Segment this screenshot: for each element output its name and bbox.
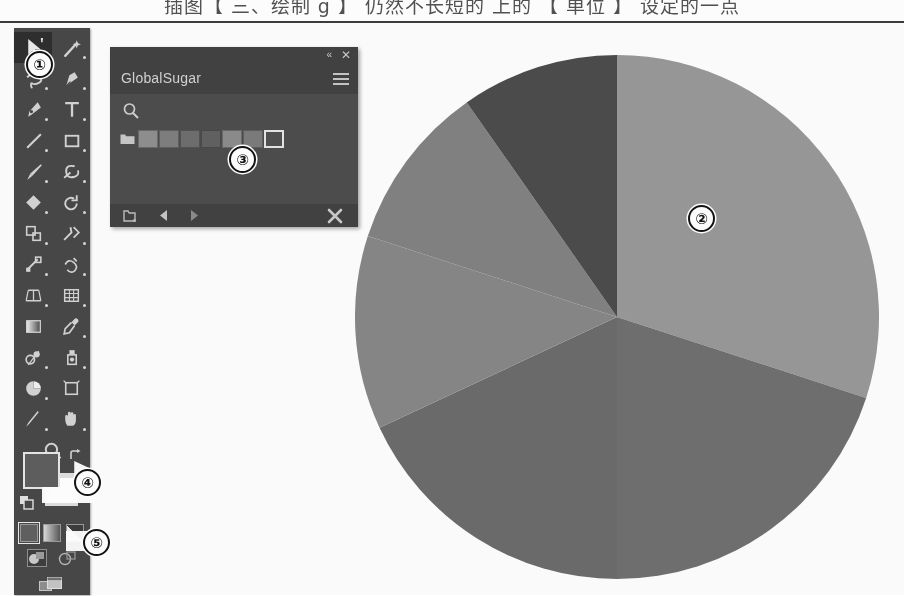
tool-flyout-indicator	[83, 335, 86, 338]
draw-normal-icon[interactable]	[27, 549, 47, 567]
gradient-tool[interactable]	[14, 311, 52, 342]
tool-flyout-indicator	[45, 211, 48, 214]
tools-panel[interactable]	[14, 28, 90, 595]
swatches-panel[interactable]: « ✕ GlobalSugar	[110, 47, 358, 227]
tool-flyout-indicator	[83, 428, 86, 431]
mesh-tool[interactable]	[52, 280, 90, 311]
type-tool[interactable]	[52, 94, 90, 125]
shaper-loop-icon	[61, 161, 82, 182]
scale-tool[interactable]	[14, 218, 52, 249]
tool-row	[14, 187, 90, 218]
swatch-row[interactable]	[120, 130, 285, 148]
triangle-left-icon[interactable]	[156, 208, 172, 223]
swatch-3[interactable]	[180, 130, 200, 148]
tool-flyout-indicator	[45, 149, 48, 152]
type-T-icon	[61, 99, 82, 120]
screen-mode-button[interactable]	[14, 572, 90, 596]
swatch-folder-icon[interactable]	[120, 133, 135, 145]
artboard-tool[interactable]	[52, 373, 90, 404]
tool-row	[14, 373, 90, 404]
tool-flyout-indicator	[83, 149, 86, 152]
tool-flyout-indicator	[83, 242, 86, 245]
column-graph-tool[interactable]	[14, 373, 52, 404]
swatch-1[interactable]	[138, 130, 158, 148]
screen-mode-icon[interactable]	[39, 575, 65, 593]
width-tool[interactable]	[52, 218, 90, 249]
eraser-tool[interactable]	[14, 187, 52, 218]
eyedropper-tool[interactable]	[52, 311, 90, 342]
artboard-icon	[61, 378, 82, 399]
tool-flyout-indicator	[83, 366, 86, 369]
tool-flyout-indicator	[45, 428, 48, 431]
rectangle-icon	[61, 130, 82, 151]
rotate-tool[interactable]	[52, 187, 90, 218]
search-magnifier-icon[interactable]	[122, 102, 140, 120]
callout-4: ④	[74, 469, 101, 496]
magic-wand-icon	[61, 37, 82, 58]
default-fill-stroke-icon[interactable]	[19, 495, 34, 510]
symbol-sprayer-tool[interactable]	[52, 342, 90, 373]
shaper-tool[interactable]	[52, 156, 90, 187]
swap-fill-stroke-icon[interactable]	[68, 448, 84, 464]
swatch-7[interactable]	[264, 130, 284, 148]
paintbrush-tool[interactable]	[14, 156, 52, 187]
swatch-2[interactable]	[159, 130, 179, 148]
callout-2: ②	[688, 205, 715, 232]
fill-swatch[interactable]	[23, 452, 60, 489]
tool-grid[interactable]	[14, 32, 90, 466]
tool-row	[14, 280, 90, 311]
curvature-tool[interactable]	[14, 94, 52, 125]
triangle-right-icon[interactable]	[186, 208, 202, 223]
callout-1: ①	[26, 51, 53, 78]
pen-tool[interactable]	[52, 63, 90, 94]
hand-tool[interactable]	[52, 404, 90, 435]
illustrator-canvas[interactable]: « ✕ GlobalSugar	[0, 23, 904, 595]
pie-chart-svg[interactable]	[355, 23, 895, 595]
callout-5: ⑤	[83, 529, 110, 556]
slice-tool[interactable]	[14, 404, 52, 435]
panel-menu-hamburger-icon[interactable]	[333, 73, 349, 85]
close-x-icon[interactable]: ✕	[341, 48, 351, 62]
free-transform-tool[interactable]	[14, 249, 52, 280]
pie-chart[interactable]	[355, 23, 895, 595]
tool-row	[14, 218, 90, 249]
hand-icon	[61, 409, 82, 430]
tool-row	[14, 342, 90, 373]
diagonal-line-icon	[23, 130, 44, 151]
pie-slice-group[interactable]	[355, 55, 879, 579]
perspective-grid-tool[interactable]	[14, 280, 52, 311]
swatch-4[interactable]	[201, 130, 221, 148]
delete-x-icon[interactable]	[326, 207, 344, 225]
tool-row	[14, 94, 90, 125]
tool-flyout-indicator	[45, 273, 48, 276]
panel-tab-row[interactable]: GlobalSugar	[110, 64, 358, 94]
tool-flyout-indicator	[83, 273, 86, 276]
panel-footer[interactable]	[110, 204, 358, 227]
gradient-icon[interactable]	[43, 524, 61, 542]
solid-color-icon[interactable]	[20, 524, 38, 542]
tool-flyout-indicator	[83, 87, 86, 90]
rectangle-tool[interactable]	[52, 125, 90, 156]
paintbrush-icon	[23, 161, 44, 182]
scanned-page-top-text: 插图【 三、绘制 g 】 仍然不长短的 上的 【 单位 】 设定的一点	[0, 0, 904, 17]
pie-graph-icon	[23, 378, 44, 399]
panel-title: GlobalSugar	[121, 70, 201, 86]
shape-builder-tool[interactable]	[52, 249, 90, 280]
draw-behind-icon[interactable]	[57, 549, 77, 567]
tool-flyout-indicator	[45, 180, 48, 183]
double-chevron-left-icon[interactable]: «	[326, 50, 332, 60]
tool-row	[14, 311, 90, 342]
direct-selection-tool[interactable]	[52, 32, 90, 63]
blend-icon	[23, 347, 44, 368]
swatch-6[interactable]	[243, 130, 263, 148]
tool-row	[14, 156, 90, 187]
width-bowtie-icon	[61, 223, 82, 244]
line-segment-tool[interactable]	[14, 125, 52, 156]
shape-builder-icon	[61, 254, 82, 275]
panel-titlebar[interactable]: « ✕	[110, 47, 358, 64]
perspective-grid-icon	[23, 285, 44, 306]
blend-tool[interactable]	[14, 342, 52, 373]
tool-row	[14, 249, 90, 280]
gradient-square-icon	[23, 316, 44, 337]
swatch-libraries-icon[interactable]	[122, 208, 138, 223]
